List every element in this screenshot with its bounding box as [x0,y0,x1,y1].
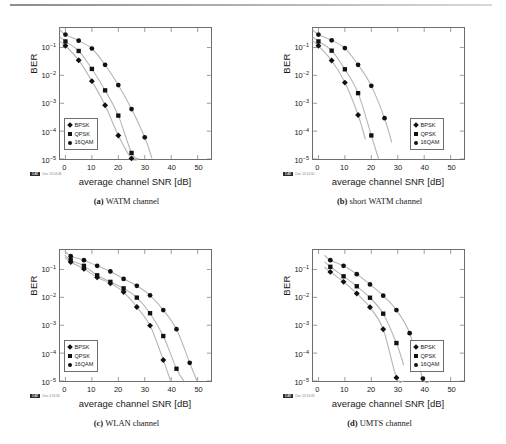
x-tick-label: 0 [62,385,66,394]
data-point-16qam [341,263,346,268]
legend-marker-diamond-icon [413,122,419,128]
panel-caption-label: (b) [337,196,347,206]
x-tick-label: 20 [114,163,122,172]
print-stamp: DATDec 13 14:48 [30,172,61,176]
legend-label: QPSK [421,352,437,361]
x-tick-label: 40 [168,385,176,394]
panel-b: BER10−110−210−310−410−501020304050averag… [253,0,506,222]
data-point-qpsk [368,296,372,300]
data-point-qpsk [355,284,359,288]
y-tick-label: 10−4 [294,348,309,359]
data-point-bpsk [355,112,361,118]
data-point-qpsk [103,88,107,92]
y-tick-label: 10−2 [294,70,309,81]
data-point-16qam [116,83,121,88]
print-stamp-date: Dec 13 14:48 [42,172,61,176]
data-point-16qam [394,308,399,313]
x-axis-label: average channel SNR [dB] [40,398,230,409]
y-tick-label: 10−1 [294,264,309,275]
panel-caption-text: WLAN channel [103,418,159,428]
data-point-qpsk [121,286,125,290]
data-point-16qam [174,327,179,332]
panel-c: BER10−110−210−310−410−501020304050averag… [0,222,253,444]
x-tick-label: 40 [421,163,429,172]
data-point-16qam [90,46,95,51]
print-stamp-code: DAT [30,172,40,176]
legend-item-qpsk: QPSK [68,130,93,139]
legend-marker-circle-icon [68,363,72,367]
y-tick-label: 10−3 [294,98,309,109]
y-tick-label: 10−2 [41,70,56,81]
x-tick-label: 50 [447,163,455,172]
x-tick-label: 20 [367,385,375,394]
data-point-16qam [356,62,361,67]
data-point-qpsk [82,264,86,268]
print-stamp: DATDec 13 14:50 [283,172,314,176]
legend-label: 16QAM [421,360,440,369]
panel-caption-text: UMTS channel [358,418,412,428]
legend-label: QPSK [75,130,91,139]
panel-caption-label: (c) [94,418,103,428]
legend-marker-circle-icon [68,141,72,145]
data-point-16qam [329,38,334,43]
data-point-16qam [134,283,139,288]
data-point-16qam [148,293,153,298]
data-point-qpsk [161,334,165,338]
panel-caption: (a) WATM channel [0,196,253,206]
legend: BPSKQPSK16QAM [410,340,444,372]
data-point-qpsk [90,67,94,71]
panel-caption: (d) UMTS channel [253,418,506,428]
legend-marker-square-icon [414,354,418,358]
panel-caption-text: WATM channel [104,196,160,206]
data-point-16qam [63,32,68,37]
y-tick-label: 10−3 [41,98,56,109]
data-point-qpsk [63,39,67,43]
y-axis-ticks: 10−110−210−310−410−5 [25,222,56,444]
data-point-bpsk [393,375,399,381]
data-point-qpsk [343,67,347,71]
legend-label: BPSK [75,121,90,130]
x-tick-label: 40 [168,163,176,172]
legend-marker-circle-icon [414,363,418,367]
legend-label: BPSK [75,343,90,352]
legend-item-bpsk: BPSK [68,343,93,352]
panel-a: BER10−110−210−310−410−501020304050averag… [0,0,253,222]
legend-item-bpsk: BPSK [414,343,439,352]
x-axis-label: average channel SNR [dB] [293,398,483,409]
x-tick-label: 10 [340,163,348,172]
y-axis-ticks: 10−110−210−310−410−5 [278,0,309,222]
legend-marker-circle-icon [414,141,418,145]
y-tick-label: 10−1 [41,42,56,53]
data-point-qpsk [69,258,73,262]
legend-marker-square-icon [414,132,418,136]
legend: BPSKQPSK16QAM [64,340,98,372]
x-tick-label: 50 [447,385,455,394]
data-point-16qam [187,360,192,365]
legend-item-qpsk: QPSK [414,130,439,139]
panel-caption: (b) short WATM channel [253,196,506,206]
x-axis-label: average channel SNR [dB] [40,176,230,187]
data-point-16qam [108,269,113,274]
print-stamp-date: Dec 13 14:50 [295,172,314,176]
x-tick-label: 30 [394,385,402,394]
data-point-qpsk [116,113,120,117]
legend-item-qpsk: QPSK [68,352,93,361]
data-point-bpsk [147,323,153,329]
print-stamp-code: DAT [30,394,40,398]
legend-label: BPSK [421,343,436,352]
data-point-qpsk [174,367,178,371]
legend-item-16qam: 16QAM [68,360,93,369]
legend-marker-square-icon [68,354,72,358]
legend-label: QPSK [421,130,437,139]
legend-item-16qam: 16QAM [414,360,439,369]
series-curve-bpsk [313,41,366,139]
data-point-qpsk [95,273,99,277]
x-tick-label: 10 [87,385,95,394]
x-tick-label: 30 [141,163,149,172]
print-stamp: DATDec 4 13:30 [30,394,60,398]
legend-marker-diamond-icon [67,344,73,350]
data-point-bpsk [342,80,348,86]
print-stamp-code: DAT [283,394,293,398]
y-tick-label: 10−4 [41,348,56,359]
data-point-16qam [407,331,412,336]
